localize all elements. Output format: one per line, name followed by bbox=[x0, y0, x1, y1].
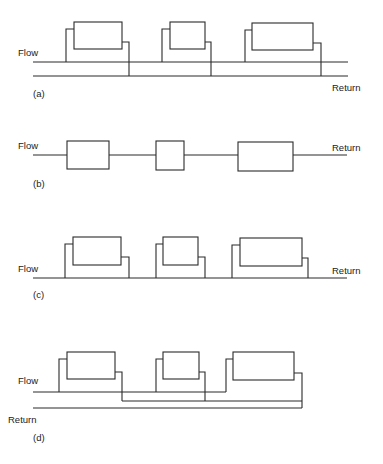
heating-pipework-diagrams: Flow Return (a) Flow Return (b) Flow bbox=[0, 0, 383, 464]
radiator-1 bbox=[59, 352, 122, 401]
flow-label: Flow bbox=[18, 375, 38, 386]
radiator-3 bbox=[226, 352, 302, 408]
radiator-2 bbox=[156, 141, 184, 170]
radiator-2 bbox=[156, 352, 205, 401]
return-label: Return bbox=[332, 142, 361, 153]
flow-label: Flow bbox=[18, 140, 38, 151]
flow-label: Flow bbox=[18, 47, 38, 58]
panel-a-two-pipe-system: Flow Return (a) bbox=[18, 22, 361, 99]
panel-caption: (b) bbox=[33, 178, 45, 189]
radiator-3 bbox=[245, 23, 321, 76]
flow-label: Flow bbox=[18, 263, 38, 274]
panel-d-reverse-return: Flow Return (d) bbox=[8, 352, 302, 443]
radiator-2 bbox=[156, 237, 205, 278]
radiator-1 bbox=[66, 22, 129, 76]
panel-caption: (d) bbox=[33, 432, 45, 443]
radiator-1 bbox=[67, 141, 109, 169]
panel-caption: (c) bbox=[33, 289, 44, 300]
panel-c-one-pipe-system: Flow Return (c) bbox=[18, 237, 361, 300]
return-label: Return bbox=[8, 414, 37, 425]
return-label: Return bbox=[332, 265, 361, 276]
return-label: Return bbox=[332, 82, 361, 93]
radiator-3 bbox=[232, 238, 308, 278]
radiator-2 bbox=[162, 22, 211, 76]
radiator-1 bbox=[65, 237, 129, 278]
radiator-3 bbox=[238, 142, 293, 171]
panel-caption: (a) bbox=[33, 88, 45, 99]
panel-b-series-loop: Flow Return (b) bbox=[18, 140, 361, 189]
